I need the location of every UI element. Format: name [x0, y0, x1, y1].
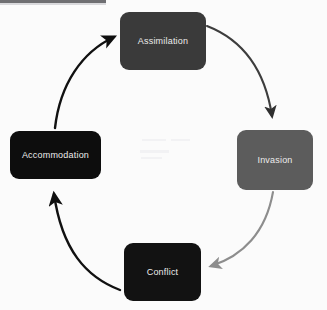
- arrow-conflict-to-accommodation: [54, 194, 120, 290]
- node-assimilation[interactable]: Assimilation: [120, 12, 206, 70]
- node-conflict-label: Conflict: [147, 268, 179, 277]
- node-accommodation[interactable]: Accommodation: [10, 131, 101, 179]
- arrow-accommodation-to-assimilation: [55, 37, 114, 128]
- node-invasion[interactable]: Invasion: [237, 130, 313, 190]
- diagram-canvas: Assimilation Invasion Conflict Accommoda…: [0, 0, 327, 310]
- node-accommodation-label: Accommodation: [22, 151, 89, 160]
- node-invasion-label: Invasion: [257, 156, 292, 165]
- node-assimilation-label: Assimilation: [138, 37, 188, 46]
- arrow-assimilation-to-invasion: [207, 26, 272, 116]
- arrow-invasion-to-conflict: [211, 192, 273, 266]
- node-conflict[interactable]: Conflict: [124, 243, 201, 301]
